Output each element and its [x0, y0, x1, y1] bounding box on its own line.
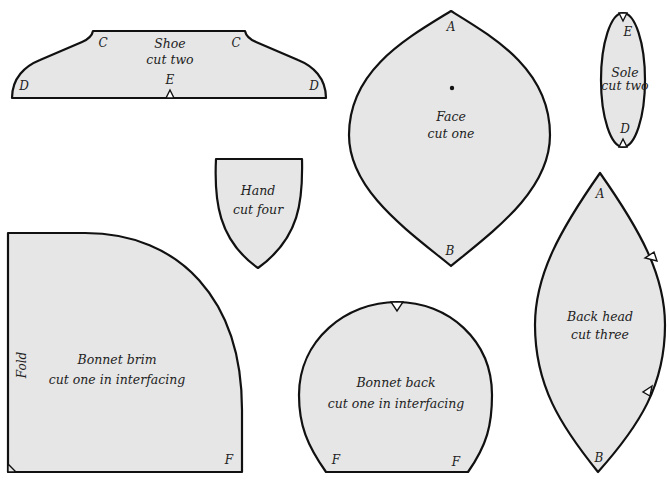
shoe-point-d-left: D: [18, 79, 29, 93]
back-head-title: Back head: [566, 309, 633, 324]
back-head-point-b: B: [594, 451, 604, 465]
bonnet-brim-piece: Bonnet brim cut one in interfacing Fold …: [8, 233, 242, 472]
hand-title: Hand: [240, 183, 275, 198]
bonnet-back-title: Bonnet back: [355, 375, 435, 390]
back-head-piece: Back head cut three A B: [535, 173, 665, 472]
shoe-piece: Shoe cut two C C D D E: [12, 31, 326, 98]
face-instruction: cut one: [427, 126, 474, 141]
pattern-sheet: Shoe cut two C C D D E Face cut one A B …: [0, 0, 670, 488]
bonnet-brim-title: Bonnet brim: [76, 352, 156, 367]
bonnet-back-piece: Bonnet back cut one in interfacing F F: [299, 302, 492, 472]
sole-point-d: D: [619, 122, 630, 136]
face-piece: Face cut one A B: [349, 11, 550, 266]
bonnet-brim-point-f: F: [224, 453, 234, 467]
bonnet-back-point-f-right: F: [451, 455, 461, 469]
back-head-instruction: cut three: [571, 327, 629, 342]
face-point-b: B: [445, 244, 455, 258]
shoe-title: Shoe: [154, 36, 186, 51]
bonnet-back-point-f-left: F: [331, 453, 341, 467]
shoe-point-d-right: D: [308, 79, 319, 93]
bonnet-back-instruction: cut one in interfacing: [328, 396, 465, 411]
sole-piece: Sole cut two E D: [601, 13, 649, 147]
shoe-point-e: E: [165, 73, 175, 87]
bonnet-brim-instruction: cut one in interfacing: [49, 372, 186, 387]
shoe-instruction: cut two: [146, 52, 193, 67]
shoe-point-c-right: C: [231, 36, 240, 50]
bonnet-brim-fold-label: Fold: [15, 351, 29, 379]
sole-point-e: E: [623, 25, 633, 39]
shoe-point-c-left: C: [98, 36, 107, 50]
hand-piece: Hand cut four: [216, 159, 303, 268]
face-point-a: A: [446, 20, 456, 34]
face-title: Face: [435, 109, 466, 124]
hand-instruction: cut four: [233, 202, 284, 217]
sole-instruction: cut two: [601, 78, 648, 93]
face-marker-dot-icon: [450, 86, 454, 90]
back-head-point-a: A: [595, 187, 605, 201]
